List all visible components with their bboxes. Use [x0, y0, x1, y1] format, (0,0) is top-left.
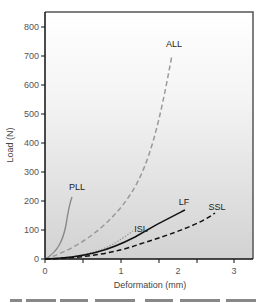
svg-text:800: 800 [24, 22, 39, 32]
label-lf: LF [179, 197, 190, 207]
svg-text:1: 1 [118, 266, 123, 276]
svg-text:500: 500 [24, 109, 39, 119]
x-tick-labels: 0 1 2 3 [42, 266, 236, 276]
svg-text:200: 200 [24, 196, 39, 206]
y-axis-label: Load (N) [5, 127, 15, 162]
svg-text:600: 600 [24, 80, 39, 90]
caption-fragment [10, 299, 256, 302]
svg-text:100: 100 [24, 225, 39, 235]
svg-text:300: 300 [24, 167, 39, 177]
label-ssl: SSL [208, 202, 225, 212]
x-axis-label: Deformation (mm) [114, 280, 187, 290]
load-deformation-chart: 800 700 600 500 400 300 200 100 0 0 1 2 … [0, 0, 263, 303]
svg-text:0: 0 [42, 266, 47, 276]
svg-text:0: 0 [34, 254, 39, 264]
svg-text:400: 400 [24, 138, 39, 148]
svg-text:2: 2 [175, 266, 180, 276]
svg-text:3: 3 [231, 266, 236, 276]
label-pll: PLL [69, 182, 85, 192]
label-all: ALL [166, 39, 182, 49]
label-isl: ISL [134, 224, 148, 234]
svg-text:700: 700 [24, 51, 39, 61]
plot-area [45, 12, 253, 259]
y-tick-labels: 800 700 600 500 400 300 200 100 0 [24, 22, 39, 264]
